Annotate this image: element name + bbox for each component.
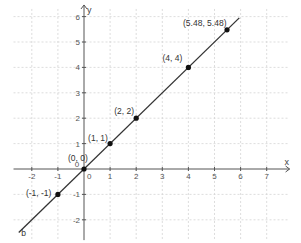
data-point bbox=[55, 192, 60, 197]
y-axis-label: y bbox=[87, 5, 92, 15]
line-series bbox=[19, 18, 240, 233]
data-point bbox=[186, 65, 191, 70]
y-tick-label: -2 bbox=[73, 216, 81, 225]
point-label: (5.48, 5.48) bbox=[183, 18, 227, 28]
data-point bbox=[81, 166, 86, 171]
x-tick-label: 1 bbox=[108, 172, 113, 181]
line-b bbox=[19, 18, 240, 233]
y-tick-label: 5 bbox=[76, 38, 81, 47]
point-label: (1, 1) bbox=[88, 133, 108, 143]
coordinate-plot: xy -2-101234567-2-10123456 b(-1, -1)(0, … bbox=[0, 0, 301, 243]
x-tick-label: 3 bbox=[160, 172, 165, 181]
x-tick-label: 7 bbox=[264, 172, 269, 181]
y-tick-label: 6 bbox=[76, 13, 81, 22]
y-tick-label: -1 bbox=[73, 190, 81, 199]
x-tick-label: 2 bbox=[134, 172, 139, 181]
x-tick-label: -1 bbox=[54, 172, 62, 181]
point-label: (2, 2) bbox=[114, 106, 134, 116]
y-tick-label: 4 bbox=[76, 63, 81, 72]
data-point bbox=[108, 141, 113, 146]
data-point bbox=[224, 27, 229, 32]
point-label: (-1, -1) bbox=[26, 188, 52, 198]
data-point bbox=[134, 116, 139, 121]
axis-ticks: -2-101234567-2-10123456 bbox=[28, 13, 269, 225]
line-name-label: b bbox=[21, 228, 26, 238]
x-axis-label: x bbox=[285, 157, 290, 167]
y-tick-label: 2 bbox=[76, 114, 81, 123]
x-tick-label: -2 bbox=[28, 172, 36, 181]
x-tick-label: 5 bbox=[212, 172, 217, 181]
y-tick-label: 1 bbox=[76, 140, 81, 149]
point-label: (0, 0) bbox=[68, 153, 88, 163]
axes: xy bbox=[14, 5, 290, 240]
y-tick-label: 3 bbox=[76, 89, 81, 98]
x-tick-label: 6 bbox=[238, 172, 243, 181]
x-tick-label: 4 bbox=[186, 172, 191, 181]
point-labels: b(-1, -1)(0, 0)(1, 1)(2, 2)(4, 4)(5.48, … bbox=[21, 18, 226, 239]
x-tick-label: 0 bbox=[87, 172, 92, 181]
grid-lines bbox=[14, 9, 288, 240]
point-label: (4, 4) bbox=[162, 53, 182, 63]
